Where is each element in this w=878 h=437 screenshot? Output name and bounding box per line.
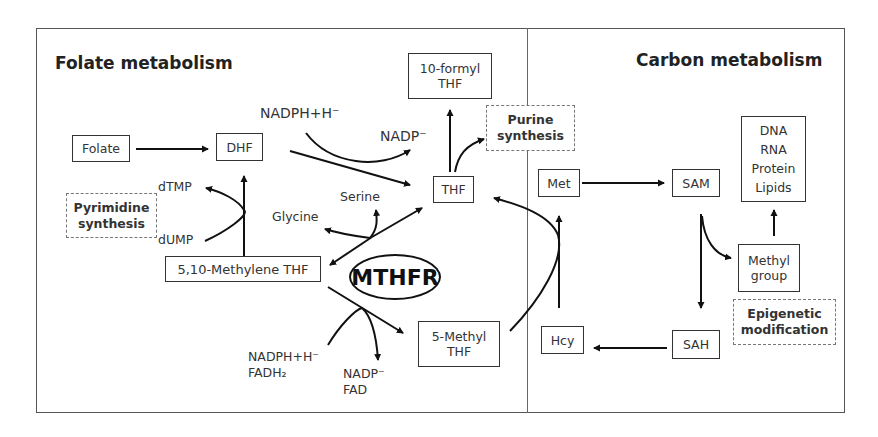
label-nadph-fadh2: NADPH+H⁻ FADH₂ <box>248 349 319 381</box>
label-nadp-top: NADP⁻ <box>380 128 427 144</box>
label-serine: Serine <box>340 189 380 205</box>
node-10-formyl-thf: 10-formyl THF <box>408 53 492 99</box>
label-dump: dUMP <box>158 232 193 248</box>
node-sam: SAM <box>672 169 720 197</box>
node-dhf: DHF <box>216 133 263 161</box>
node-methyl-group: Methyl group <box>738 244 800 292</box>
label-nadph-top: NADPH+H⁻ <box>260 105 339 121</box>
enzyme-mthfr: MTHFR <box>349 254 441 300</box>
node-hcy: Hcy <box>541 326 584 354</box>
process-epigenetic-modification: Epigenetic modification <box>733 299 836 345</box>
node-sah: SAH <box>672 330 720 359</box>
label-dtmp: dTMP <box>158 179 192 195</box>
node-thf: THF <box>433 176 474 203</box>
process-purine-synthesis: Purine synthesis <box>486 105 575 151</box>
label-nadp-fad: NADP⁻ FAD <box>343 366 385 398</box>
process-pyrimidine-synthesis: Pyrimidine synthesis <box>66 193 157 238</box>
node-dna-rna-protein-lipids: DNA RNA Protein Lipids <box>741 116 806 202</box>
node-met: Met <box>538 169 580 197</box>
node-folate: Folate <box>72 135 130 162</box>
node-5-methyl-thf: 5-Methyl THF <box>418 321 500 367</box>
node-5-10-methylene-thf: 5,10-Methylene THF <box>165 256 321 282</box>
label-glycine: Glycine <box>272 209 319 225</box>
